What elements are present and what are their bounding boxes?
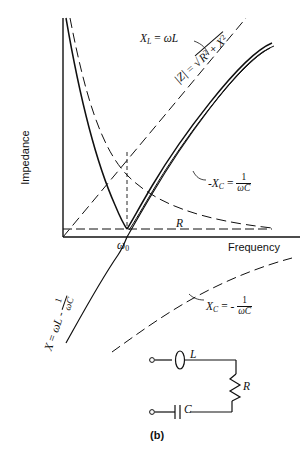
omega-subscript: 0 <box>125 244 129 253</box>
capacitor-label: C <box>184 404 192 416</box>
impedance-magnitude-curve-right <box>127 43 272 229</box>
x-net-first-term: ωL <box>48 316 64 334</box>
x-net-equals: = <box>45 333 58 343</box>
x-c-symbol: X <box>206 300 213 312</box>
minus-x-c-numerator: 1 <box>236 173 251 183</box>
capacitive-reactance-label: XC = - 1 ωC <box>206 296 252 317</box>
x-l-equals: = <box>154 32 161 44</box>
x-c-equals: = - <box>221 300 234 312</box>
x-c-fraction: 1 ωC <box>237 296 252 317</box>
figure-panel-b: Impedance Frequency XL = ωL |Z| = √R2 + … <box>0 0 308 454</box>
x-c-denominator: ωC <box>237 306 252 317</box>
minus-x-c-symbol: -X <box>208 177 219 189</box>
leader-line-minus-x-c <box>193 171 206 180</box>
impedance-vs-frequency-plot <box>0 0 308 454</box>
capacitive-reactance-curve <box>112 258 292 352</box>
x-l-subscript: L <box>147 37 151 46</box>
inductor-coil <box>176 351 185 369</box>
y-axis-label: Impedance <box>20 113 31 203</box>
impedance-magnitude-curve-right-outer <box>129 46 274 230</box>
resistance-label: R <box>176 218 183 230</box>
x-c-subscript: C <box>213 305 218 314</box>
x-l-symbol: X <box>140 32 147 44</box>
resonant-frequency-label: ω0 <box>117 240 129 253</box>
terminal-bottom <box>150 410 155 415</box>
minus-x-c-subscript: C <box>219 182 224 191</box>
negative-capacitive-reactance-curve <box>70 18 272 228</box>
resistor-zigzag <box>230 374 240 401</box>
x-net-minus: - <box>54 310 67 318</box>
minus-x-c-equals: = <box>227 177 234 189</box>
minus-x-c-fraction: 1 ωC <box>236 173 251 194</box>
negative-capacitive-reactance-label: -XC = 1 ωC <box>208 173 251 194</box>
resistor-label: R <box>243 381 250 393</box>
figure-caption: (b) <box>150 430 164 441</box>
inductor-label: L <box>190 349 196 361</box>
minus-x-c-denominator: ωC <box>236 183 251 194</box>
x-c-numerator: 1 <box>237 296 252 306</box>
circuit-schematic <box>150 351 240 419</box>
x-l-rhs: ωL <box>164 32 179 44</box>
terminal-top <box>150 358 155 363</box>
x-axis-label: Frequency <box>228 242 280 253</box>
inductive-reactance-label: XL = ωL <box>140 33 178 46</box>
omega-symbol: ω <box>117 239 125 251</box>
